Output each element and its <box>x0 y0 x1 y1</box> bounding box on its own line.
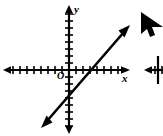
y-axis-bottom-arrowhead <box>65 126 73 134</box>
graph-figure: y x O <box>0 0 163 136</box>
y-axis-label: y <box>74 4 79 15</box>
y-axis-top-arrowhead <box>65 5 73 13</box>
mouse-cursor-icon <box>141 12 163 37</box>
x-axis-label: x <box>122 73 128 84</box>
origin-label: O <box>57 71 64 81</box>
cursor-arrow-shape <box>141 12 163 37</box>
plotted-line <box>41 25 130 128</box>
fragment-left-arrowhead <box>144 66 152 74</box>
adjacent-figure-fragment <box>144 56 163 84</box>
x-axis <box>3 66 130 74</box>
coordinate-plane-svg <box>0 0 163 136</box>
x-axis-left-arrowhead <box>3 66 11 74</box>
